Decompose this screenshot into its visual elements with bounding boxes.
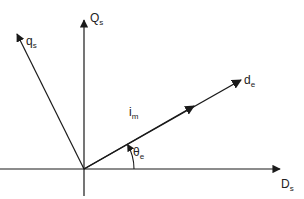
q-rotated-label: qs bbox=[26, 35, 37, 52]
label-main: q bbox=[26, 34, 33, 48]
label-sub: e bbox=[140, 152, 144, 161]
label-sub: e bbox=[251, 80, 255, 89]
label-sub: s bbox=[290, 184, 294, 193]
im-label: im bbox=[129, 106, 138, 123]
label-main: θ bbox=[133, 145, 140, 159]
label-main: Q bbox=[90, 11, 99, 25]
vector-diagram bbox=[0, 0, 304, 199]
label-main: D bbox=[281, 177, 290, 191]
theta-label: θe bbox=[133, 146, 144, 163]
qs-axis-label: Qs bbox=[90, 12, 103, 29]
label-sub: m bbox=[132, 112, 139, 121]
ds-axis-label: Ds bbox=[281, 178, 294, 195]
label-sub: s bbox=[99, 18, 103, 27]
q-rotated-axis bbox=[17, 34, 84, 169]
label-main: d bbox=[244, 73, 251, 87]
d-rotated-label: de bbox=[244, 74, 255, 91]
label-sub: s bbox=[33, 41, 37, 50]
